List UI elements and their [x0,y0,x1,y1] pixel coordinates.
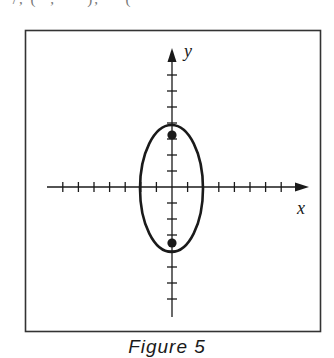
y-axis-label: y [182,41,192,61]
y-axis-arrow-icon [168,48,177,62]
x-axis-arrow-icon [295,183,309,192]
y-axis: y [167,41,192,317]
focus-point-bottom [167,238,176,247]
x-axis-label: x [296,198,305,218]
figure-caption: Figure 5 [0,336,334,358]
focus-point-top [167,130,176,139]
x-axis: x [47,182,309,218]
